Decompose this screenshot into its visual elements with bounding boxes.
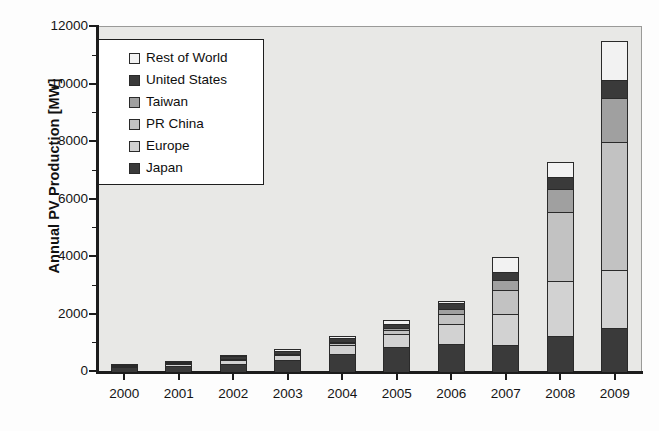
bar-segment-taiwan bbox=[493, 281, 518, 292]
y-tick-major bbox=[89, 140, 97, 142]
bar-segment-japan bbox=[384, 348, 409, 372]
bar-2002 bbox=[220, 355, 247, 371]
bar-2009 bbox=[601, 41, 628, 371]
legend-item: Japan bbox=[99, 157, 263, 179]
x-tick bbox=[450, 371, 452, 380]
x-tick bbox=[232, 371, 234, 380]
y-tick-major bbox=[89, 83, 97, 85]
y-tick-minor bbox=[92, 55, 97, 56]
bar-segment-taiwan bbox=[602, 99, 627, 144]
legend-item: Taiwan bbox=[99, 91, 263, 113]
bar-segment-taiwan bbox=[548, 190, 573, 213]
x-tick bbox=[505, 371, 507, 380]
legend-label: Japan bbox=[146, 161, 183, 175]
bar-segment-japan bbox=[548, 337, 573, 372]
bar-segment-europe bbox=[330, 346, 355, 355]
bar-segment-japan bbox=[221, 365, 246, 372]
bar-segment-europe bbox=[602, 271, 627, 329]
y-tick-major bbox=[89, 255, 97, 257]
bar-segment-united-states bbox=[548, 178, 573, 190]
bar-2008 bbox=[547, 162, 574, 371]
legend-swatch-icon bbox=[129, 97, 140, 108]
legend-label: Rest of World bbox=[146, 51, 228, 65]
y-tick-minor bbox=[92, 112, 97, 113]
bar-segment-europe bbox=[493, 315, 518, 346]
legend-swatch-icon bbox=[129, 53, 140, 64]
legend-swatch-icon bbox=[129, 141, 140, 152]
legend-item: Rest of World bbox=[99, 47, 263, 69]
bar-2005 bbox=[383, 320, 410, 371]
bar-segment-rest-of-world bbox=[548, 163, 573, 178]
bar-2000 bbox=[111, 364, 138, 371]
y-tick-major bbox=[89, 370, 97, 372]
bar-segment-japan bbox=[166, 367, 191, 372]
y-tick-minor bbox=[92, 285, 97, 286]
legend-item: United States bbox=[99, 69, 263, 91]
pv-production-chart: Annual PV Production [MW] 02000400060008… bbox=[0, 0, 659, 431]
bar-segment-europe bbox=[384, 335, 409, 349]
bar-segment-europe bbox=[439, 325, 464, 345]
y-tick-minor bbox=[92, 227, 97, 228]
y-tick-major bbox=[89, 25, 97, 27]
bar-segment-japan bbox=[275, 361, 300, 371]
y-tick-label: 12000 bbox=[26, 18, 88, 33]
bar-2003 bbox=[274, 349, 301, 371]
bar-segment-united-states bbox=[602, 81, 627, 99]
bar-segment-pr-china bbox=[548, 213, 573, 282]
y-tick-label: 6000 bbox=[26, 191, 88, 206]
legend-item: Europe bbox=[99, 135, 263, 157]
y-tick-minor bbox=[92, 342, 97, 343]
bar-2001 bbox=[165, 361, 192, 371]
bar-segment-japan bbox=[330, 355, 355, 372]
bar-segment-japan bbox=[493, 346, 518, 372]
y-tick-major bbox=[89, 198, 97, 200]
y-tick-label: 8000 bbox=[26, 133, 88, 148]
x-tick-label: 2009 bbox=[580, 386, 650, 401]
legend-swatch-icon bbox=[129, 163, 140, 174]
legend-label: Taiwan bbox=[146, 95, 188, 109]
bar-segment-united-states bbox=[493, 273, 518, 281]
chart-legend: Rest of WorldUnited StatesTaiwanPR China… bbox=[98, 39, 264, 185]
y-tick-major bbox=[89, 313, 97, 315]
y-axis-title: Annual PV Production [MW] bbox=[46, 26, 62, 326]
y-tick-label: 4000 bbox=[26, 248, 88, 263]
x-tick bbox=[287, 371, 289, 380]
x-tick bbox=[123, 371, 125, 380]
legend-label: United States bbox=[146, 73, 227, 87]
y-tick-label: 0 bbox=[26, 363, 88, 378]
bar-segment-pr-china bbox=[493, 291, 518, 315]
x-tick bbox=[341, 371, 343, 380]
legend-label: PR China bbox=[146, 117, 204, 131]
x-tick bbox=[396, 371, 398, 380]
bar-segment-pr-china bbox=[439, 315, 464, 326]
legend-swatch-icon bbox=[129, 119, 140, 130]
legend-item: PR China bbox=[99, 113, 263, 135]
bar-segment-pr-china bbox=[602, 143, 627, 271]
x-tick bbox=[614, 371, 616, 380]
x-tick bbox=[559, 371, 561, 380]
bar-segment-rest-of-world bbox=[493, 258, 518, 272]
x-tick bbox=[178, 371, 180, 380]
legend-label: Europe bbox=[146, 139, 190, 153]
bar-segment-europe bbox=[548, 282, 573, 337]
bar-segment-japan bbox=[112, 368, 137, 372]
bar-2007 bbox=[492, 257, 519, 371]
bar-segment-japan bbox=[602, 329, 627, 372]
bar-segment-japan bbox=[439, 345, 464, 372]
y-tick-minor bbox=[92, 170, 97, 171]
bar-2006 bbox=[438, 301, 465, 371]
legend-swatch-icon bbox=[129, 75, 140, 86]
bar-2004 bbox=[329, 336, 356, 371]
bar-segment-rest-of-world bbox=[602, 42, 627, 81]
y-tick-label: 2000 bbox=[26, 306, 88, 321]
y-tick-label: 10000 bbox=[26, 76, 88, 91]
